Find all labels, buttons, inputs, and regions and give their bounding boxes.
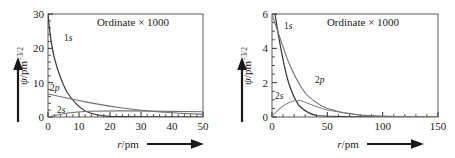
y-tick-label-0: 0: [263, 111, 269, 123]
x-tick-label-5: 50: [198, 120, 210, 132]
ordinate-annotation: Ordinate × 1000: [327, 16, 400, 28]
curve-label-2p: 2p: [50, 83, 60, 93]
x-tick-label-3: 30: [136, 120, 148, 132]
left-chart-svg: 0 10 20 30 0 10 20 30 40 50 ψ/pm−3/2: [0, 0, 227, 158]
x-tick-label-1: 50: [322, 120, 334, 132]
plot-frame: [48, 14, 203, 117]
chart-panel-right: 0 2 4 6 0 50 100 150 ψ/pm−3/2 r/pm: [228, 0, 455, 158]
x-tick-label-0: 0: [45, 120, 51, 132]
x-tick-label-4: 40: [167, 120, 179, 132]
x-tick-label-1: 10: [74, 120, 86, 132]
chart-panel-left: 0 10 20 30 0 10 20 30 40 50 ψ/pm−3/2: [0, 0, 227, 158]
x-axis-arrow: [147, 139, 204, 149]
curve-label-2s-l: s: [280, 91, 284, 101]
curve-label-2s: 2s: [275, 91, 284, 101]
ordinate-annotation: Ordinate × 1000: [97, 16, 170, 28]
curve-label-1s-l: s: [289, 21, 293, 31]
x-axis-arrow: [367, 139, 424, 149]
y-tick-label-3: 30: [33, 8, 45, 20]
curve-label-2s-l: s: [62, 105, 66, 115]
y-axis-arrow: [13, 57, 23, 122]
x-axis-unit: /pm: [342, 138, 360, 150]
curve-label-1s-l: s: [69, 33, 73, 43]
figure-container: 0 10 20 30 0 10 20 30 40 50 ψ/pm−3/2: [0, 0, 455, 158]
curve-label-2s: 2s: [57, 105, 66, 115]
curve-1s: [48, 14, 203, 117]
x-axis-title: r/pm: [117, 138, 139, 150]
curve-label-2p: 2p: [315, 75, 325, 85]
curve-label-1s: 1s: [284, 21, 293, 31]
curve-1s: [275, 14, 438, 117]
curve-label-1s: 1s: [64, 33, 73, 43]
x-tick-label-2: 20: [105, 120, 117, 132]
curve-label-2p-l: p: [54, 83, 60, 93]
y-axis-major-ticks: [48, 14, 53, 117]
x-tick-label-0: 0: [269, 120, 275, 132]
y-axis-arrow: [237, 57, 247, 122]
y-tick-label-2: 20: [33, 42, 45, 54]
x-tick-label-2: 100: [374, 120, 391, 132]
y-tick-label-2: 4: [263, 42, 269, 54]
y-tick-label-1: 2: [263, 77, 269, 89]
y-tick-label-1: 10: [33, 77, 45, 89]
x-axis-title: r/pm: [337, 138, 359, 150]
y-tick-label-3: 6: [263, 8, 269, 20]
curve-label-2p-l: p: [319, 75, 325, 85]
y-tick-label-0: 0: [39, 111, 45, 123]
x-axis-unit: /pm: [122, 138, 140, 150]
x-tick-label-3: 150: [430, 120, 447, 132]
right-chart-svg: 0 2 4 6 0 50 100 150 ψ/pm−3/2 r/pm: [228, 0, 455, 158]
